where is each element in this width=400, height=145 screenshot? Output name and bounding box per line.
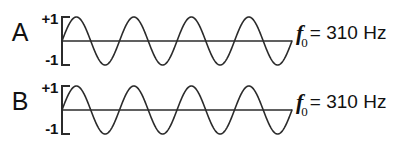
- waveform-plot-a: [62, 12, 292, 70]
- axis-tick-top-b: +1: [28, 80, 58, 95]
- figure-canvas: A +1 -1 f0= 310 Hz B +1 -1 f0= 310 Hz: [0, 0, 400, 145]
- axis-tick-bottom-a: -1: [28, 52, 58, 67]
- frequency-subscript-a: 0: [301, 35, 308, 50]
- frequency-value-b: = 310 Hz: [310, 91, 387, 112]
- axis-tick-bottom-b: -1: [28, 121, 58, 136]
- waveform-row-b: B +1 -1 f0= 310 Hz: [0, 71, 400, 143]
- waveform-plot-b: [62, 81, 292, 139]
- axis-tick-top-a: +1: [28, 11, 58, 26]
- waveform-row-a: A +1 -1 f0= 310 Hz: [0, 2, 400, 74]
- sine-wave-b-svg: [62, 81, 292, 139]
- frequency-value-a: = 310 Hz: [310, 22, 387, 43]
- sine-wave-a-svg: [62, 12, 292, 70]
- frequency-label-b: f0= 310 Hz: [296, 91, 386, 119]
- frequency-label-a: f0= 310 Hz: [296, 22, 386, 50]
- frequency-subscript-b: 0: [301, 104, 308, 119]
